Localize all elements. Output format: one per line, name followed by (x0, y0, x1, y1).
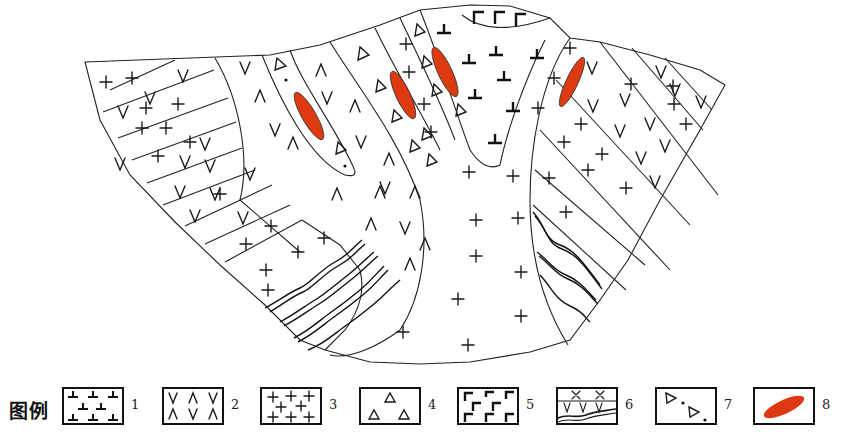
ore-body (555, 55, 589, 109)
legend-number: 7 (724, 397, 732, 412)
stripe-line (110, 60, 175, 90)
legend-swatch-wavy (556, 387, 618, 425)
stripe-line (600, 42, 718, 195)
wavy-layers-right (533, 212, 602, 322)
geological-map (0, 0, 849, 370)
unit-boundary (302, 220, 360, 270)
step-symbols (474, 12, 526, 26)
legend-number: 1 (131, 397, 139, 412)
stripe-line (225, 220, 302, 262)
stripe-line (147, 148, 242, 183)
wavy-layers-left (265, 240, 400, 350)
ore-body (289, 89, 328, 143)
legend: 图例 1 2 3 (0, 370, 849, 439)
legend-swatch-v (162, 387, 224, 425)
unit-boundary (215, 58, 300, 252)
legend-number: 5 (526, 397, 534, 412)
legend-title: 图例 (9, 396, 49, 423)
map-outline (85, 5, 725, 364)
stripe-line (665, 58, 712, 110)
legend-number: 6 (625, 397, 633, 412)
unit-boundary (530, 38, 570, 345)
stripe-line (540, 130, 670, 270)
legend-swatch-triangle-dot (655, 387, 717, 425)
stripe-line (103, 70, 214, 112)
legend-swatch-cross (260, 387, 322, 425)
legend-number: 3 (329, 397, 337, 412)
legend-swatch-step (457, 387, 519, 425)
legend-number: 4 (428, 397, 436, 412)
legend-number: 8 (822, 397, 830, 412)
legend-swatch-triangle (359, 387, 421, 425)
ore-body (386, 68, 421, 121)
legend-swatch-inverted-t (62, 387, 124, 425)
legend-swatch-ore-body (753, 387, 815, 425)
stripe-line (533, 205, 626, 290)
legend-number: 2 (231, 397, 239, 412)
